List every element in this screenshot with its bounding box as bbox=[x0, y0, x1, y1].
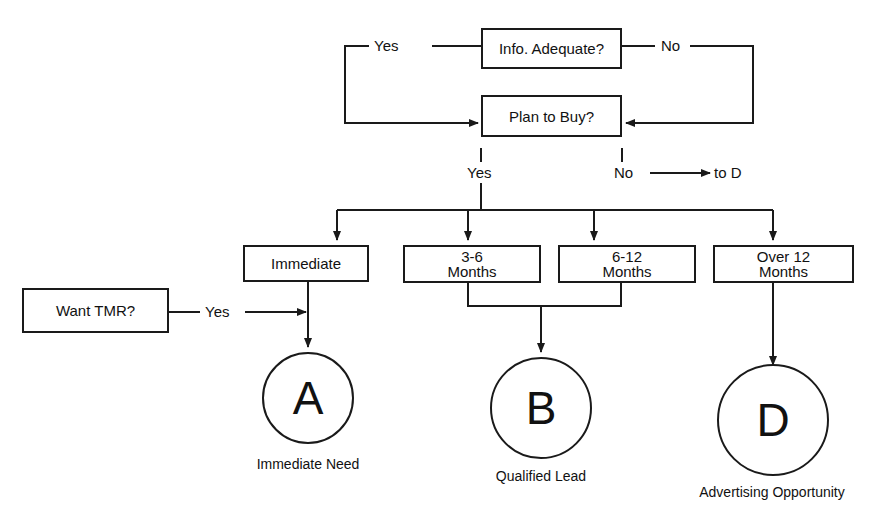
timeframe-label: Months bbox=[447, 264, 496, 279]
timeframe-over-12-box: Over 12 Months bbox=[713, 245, 854, 283]
outcome-a-caption: Immediate Need bbox=[248, 456, 368, 472]
info-yes-label: Yes bbox=[372, 38, 400, 54]
outcome-letter: D bbox=[756, 393, 789, 447]
to-d-label: to D bbox=[712, 165, 744, 181]
info-adequate-text: Info. Adequate? bbox=[499, 41, 604, 56]
timeframe-label: 6-12 bbox=[612, 249, 642, 264]
timeframe-label: Months bbox=[759, 264, 808, 279]
timeframe-label: 3-6 bbox=[461, 249, 483, 264]
outcome-d-circle: D bbox=[717, 364, 829, 476]
info-adequate-box: Info. Adequate? bbox=[481, 28, 622, 69]
outcome-b-caption: Qualified Lead bbox=[481, 468, 601, 484]
plan-yes-label: Yes bbox=[465, 165, 493, 181]
timeframe-label: Over 12 bbox=[757, 249, 810, 264]
timeframe-immediate-box: Immediate bbox=[243, 245, 369, 282]
outcome-letter: B bbox=[526, 381, 557, 435]
plan-to-buy-box: Plan to Buy? bbox=[481, 95, 622, 137]
want-tmr-text: Want TMR? bbox=[56, 303, 135, 318]
timeframe-6-12-box: 6-12 Months bbox=[558, 245, 696, 283]
plan-to-buy-text: Plan to Buy? bbox=[509, 109, 594, 124]
outcome-a-circle: A bbox=[262, 352, 354, 444]
timeframe-label: Immediate bbox=[271, 256, 341, 271]
tmr-yes-label: Yes bbox=[203, 304, 231, 320]
outcome-b-circle: B bbox=[490, 357, 592, 459]
timeframe-3-6-box: 3-6 Months bbox=[403, 245, 541, 283]
info-no-label: No bbox=[659, 38, 682, 54]
outcome-letter: A bbox=[293, 371, 324, 425]
plan-no-label: No bbox=[612, 165, 635, 181]
want-tmr-box: Want TMR? bbox=[22, 288, 169, 333]
outcome-d-caption: Advertising Opportunity bbox=[672, 484, 872, 500]
timeframe-label: Months bbox=[602, 264, 651, 279]
